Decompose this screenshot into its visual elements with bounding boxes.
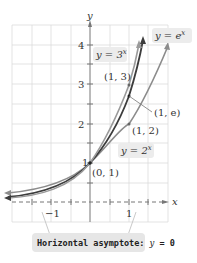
point-label-1-2: (1, 2) xyxy=(132,125,159,136)
x-axis-label: x xyxy=(172,196,178,207)
tick-y-2: 2 xyxy=(78,119,84,130)
tick-y-3: 3 xyxy=(78,79,84,90)
tick-y-4: 4 xyxy=(78,40,84,51)
point-label-0-1: (0, 1) xyxy=(92,167,119,178)
exponential-chart: y x 4 3 2 1 −1 1 (1, 3) (1, e) (1, 2) (0… xyxy=(0,0,197,263)
asymptote-caption: Horizontal asymptote: y = 0 xyxy=(37,238,175,248)
y-axis-label: y xyxy=(86,10,93,21)
curve-label-ex: y = ex xyxy=(154,29,185,41)
curve-label-2x: y = 2x xyxy=(120,144,152,156)
tick-y-1: 1 xyxy=(82,157,88,168)
tick-x-1: 1 xyxy=(126,208,132,219)
curve-label-3x: y = 3x xyxy=(95,48,127,60)
curve-arrowheads xyxy=(4,36,170,201)
point-label-1-e: (1, e) xyxy=(154,107,181,118)
tick-x-neg1: −1 xyxy=(45,208,60,219)
y-axis xyxy=(87,20,93,222)
point-label-1-3: (1, 3) xyxy=(104,71,131,82)
